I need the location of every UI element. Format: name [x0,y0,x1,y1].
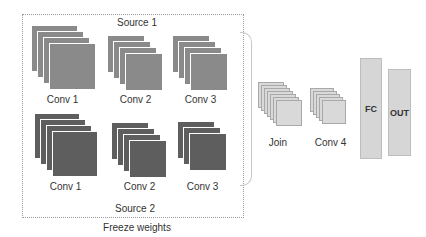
feature-map-layer [49,43,96,90]
merge-bracket [240,32,252,186]
join-label: Join [263,137,293,148]
conv-4-label: Conv 4 [313,137,348,148]
out-layer: OUT [388,69,411,156]
feature-map-layer [322,100,346,124]
source-2-label: Source 2 [110,203,160,214]
source-1-label: Source 1 [112,17,162,28]
fc-layer: FC [360,58,382,159]
fc-label: FC [365,104,377,114]
source-1-conv-1-label: Conv 1 [40,94,85,105]
source-2-conv-3-label: Conv 3 [180,181,225,192]
out-label: OUT [390,108,409,118]
source-1-conv-2-label: Conv 2 [113,94,158,105]
feature-map-layer [129,140,167,178]
source-2-conv-1-label: Conv 1 [43,181,88,192]
feature-map-layer [276,100,302,126]
feature-map-layer [52,131,98,177]
source-2-conv-2-label: Conv 2 [117,181,162,192]
feature-map-layer [125,53,163,91]
source-1-conv-3-label: Conv 3 [178,94,223,105]
feature-map-layer [189,133,227,171]
feature-map-layer [190,53,228,91]
freeze-weights-caption: Freeze weights [97,222,177,233]
